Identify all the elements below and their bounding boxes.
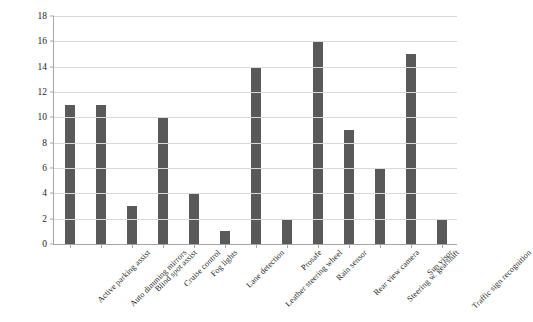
gridline bbox=[54, 219, 457, 220]
y-tick-mark bbox=[50, 142, 54, 143]
bar-slot bbox=[426, 16, 457, 244]
y-tick-mark bbox=[50, 66, 54, 67]
bar[interactable] bbox=[375, 168, 385, 244]
bar-slot bbox=[85, 16, 116, 244]
bar[interactable] bbox=[251, 67, 261, 244]
gridline bbox=[54, 41, 457, 42]
gridline bbox=[54, 92, 457, 93]
gridline bbox=[54, 117, 457, 118]
bar-slot bbox=[364, 16, 395, 244]
plot-area: 024681012141618 bbox=[54, 16, 457, 244]
bar[interactable] bbox=[220, 231, 230, 244]
bar[interactable] bbox=[158, 117, 168, 244]
y-tick-label: 12 bbox=[38, 87, 48, 97]
bar-slot bbox=[178, 16, 209, 244]
gridline bbox=[54, 16, 457, 17]
bars-layer bbox=[54, 16, 457, 244]
y-tick-label: 14 bbox=[38, 62, 48, 72]
y-tick-label: 2 bbox=[42, 214, 47, 224]
bar-slot bbox=[209, 16, 240, 244]
bar[interactable] bbox=[282, 219, 292, 244]
bar-slot bbox=[240, 16, 271, 244]
y-tick-mark bbox=[50, 244, 54, 245]
y-tick-mark bbox=[50, 92, 54, 93]
y-tick-mark bbox=[50, 193, 54, 194]
bar[interactable] bbox=[65, 105, 75, 244]
x-axis-labels: Active parking assistAuto dimming mirror… bbox=[54, 248, 457, 322]
bar[interactable] bbox=[406, 54, 416, 244]
y-tick-label: 16 bbox=[38, 36, 48, 46]
bar-slot bbox=[271, 16, 302, 244]
bar-slot bbox=[147, 16, 178, 244]
bar[interactable] bbox=[437, 219, 447, 244]
bar-slot bbox=[116, 16, 147, 244]
y-tick-label: 8 bbox=[42, 138, 47, 148]
y-tick-mark bbox=[50, 16, 54, 17]
x-tick-label: Traffic sign recognition bbox=[470, 248, 533, 311]
gridline bbox=[54, 168, 457, 169]
y-tick-mark bbox=[50, 41, 54, 42]
x-tick-label: Lane detection bbox=[244, 248, 286, 290]
y-tick-label: 6 bbox=[42, 163, 47, 173]
gridline bbox=[54, 143, 457, 144]
y-tick-mark bbox=[50, 168, 54, 169]
gridline bbox=[54, 67, 457, 68]
bar-slot bbox=[333, 16, 364, 244]
y-tick-label: 0 bbox=[42, 239, 47, 249]
bar[interactable] bbox=[127, 206, 137, 244]
bar-slot bbox=[54, 16, 85, 244]
y-tick-mark bbox=[50, 117, 54, 118]
bar[interactable] bbox=[344, 130, 354, 244]
y-tick-label: 18 bbox=[38, 11, 48, 21]
bar-slot bbox=[395, 16, 426, 244]
gridline bbox=[54, 193, 457, 194]
y-tick-label: 4 bbox=[42, 188, 47, 198]
bar-slot bbox=[302, 16, 333, 244]
y-tick-label: 10 bbox=[38, 112, 48, 122]
y-tick-mark bbox=[50, 218, 54, 219]
bar[interactable] bbox=[96, 105, 106, 244]
